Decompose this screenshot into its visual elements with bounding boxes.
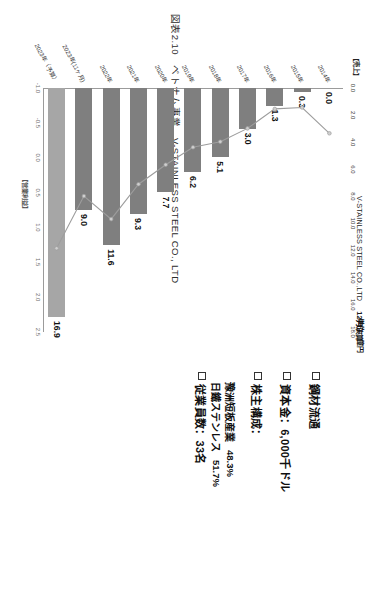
top-tick-label: 18.0: [350, 326, 356, 338]
checkbox-icon: [283, 372, 291, 380]
category-label: 2020年: [153, 63, 170, 84]
info-item-label: 鋼材流通: [307, 384, 323, 429]
info-item-label: 資本金：6,000千ドル: [278, 384, 294, 492]
shareholder-percent: 51.7%: [209, 460, 223, 487]
line-marker: [191, 146, 195, 150]
chart-plot-area: 0.00.31.33.05.16.27.79.311.69.016.9: [43, 88, 343, 332]
top-tick-label: 16.0: [350, 299, 356, 311]
chart-company-name: V-STAINLESS STEEL CO.,LTD: [355, 196, 364, 301]
top-tick-label: 12.0: [350, 245, 356, 257]
top-tick-label: 0.0: [350, 84, 356, 92]
line-marker: [300, 106, 304, 110]
category-label: 2014年: [316, 63, 333, 84]
shareholder-list: 豫洲短板産業48.3%日鐵ステンレス51.7%: [209, 382, 236, 604]
line-path: [57, 108, 330, 249]
top-tick-label: 6.0: [350, 165, 356, 173]
line-marker: [55, 247, 59, 251]
category-label: 2015年: [289, 63, 306, 84]
shareholder-name: 豫洲短板産業: [223, 382, 237, 442]
line-marker: [164, 163, 168, 167]
info-item-label: 株主構成：: [249, 384, 265, 441]
bottom-tick-label: -1.0: [35, 83, 41, 93]
category-label: 2023年(11ヶ月): [60, 43, 87, 84]
line-series: [43, 88, 343, 332]
top-tick-label: 8.0: [350, 192, 356, 200]
line-marker: [82, 194, 86, 198]
info-item-label: 従業員数：33名: [193, 384, 209, 465]
top-tick-label: 4.0: [350, 138, 356, 146]
shareholder-percent: 48.3%: [223, 450, 237, 477]
category-label: 2021年: [125, 63, 142, 84]
top-tick-label: 2.0: [350, 111, 356, 119]
category-label: 2017年: [234, 63, 251, 84]
category-axis-labels: 2014年2015年2016年2017年2018年2019年2020年2021年…: [43, 0, 343, 86]
bottom-tick-label: 2.5: [35, 328, 41, 336]
category-label: 2018年: [207, 63, 224, 84]
top-axis-ticks: 0.02.04.06.08.010.012.014.016.018.0: [344, 88, 356, 332]
shareholder-row: 日鐵ステンレス51.7%: [209, 382, 223, 604]
bottom-tick-label: 1.0: [35, 223, 41, 231]
info-item: 資本金：6,000千ドル: [278, 372, 294, 604]
top-tick-label: 14.0: [350, 272, 356, 284]
info-item: 従業員数：33名: [193, 372, 209, 604]
category-label: 2019年: [180, 63, 197, 84]
shareholder-name: 日鐵ステンレス: [209, 382, 223, 452]
company-info-list: 鋼材流通資本金：6,000千ドル株主構成：豫洲短板産業48.3%日鐵ステンレス5…: [180, 372, 323, 604]
checkbox-icon: [198, 372, 206, 380]
checkbox-icon: [254, 372, 262, 380]
shareholder-row: 豫洲短板産業48.3%: [223, 382, 237, 604]
info-item-heading: 従業員数：33名: [193, 372, 209, 604]
line-marker: [109, 217, 113, 221]
bottom-tick-label: 0.0: [35, 154, 41, 162]
top-axis-title: 【売上】: [352, 55, 361, 79]
bottom-tick-label: 2.0: [35, 293, 41, 301]
line-marker: [273, 107, 277, 111]
slide-page: 図表2.10 ベトナム事業 V-STAINLESS STEEL CO., LTD…: [0, 0, 383, 616]
chart-unit-label: 単位：億円: [356, 318, 366, 353]
checkbox-icon: [312, 372, 320, 380]
top-tick-label: 10.0: [350, 218, 356, 230]
category-label: 2022年: [98, 63, 115, 84]
line-marker: [328, 132, 332, 136]
bottom-tick-label: -0.5: [35, 118, 41, 128]
info-item: 株主構成：豫洲短板産業48.3%日鐵ステンレス51.7%: [209, 372, 265, 604]
info-item-heading: 株主構成：: [249, 372, 265, 604]
bottom-tick-label: 1.5: [35, 258, 41, 266]
line-marker: [219, 140, 223, 144]
line-marker: [246, 127, 250, 131]
category-label: 2023年（予算）: [32, 42, 60, 85]
bottom-tick-label: 0.5: [35, 188, 41, 196]
category-label: 2016年: [262, 63, 279, 84]
bottom-axis-ticks: -1.0-0.50.00.51.01.52.02.5: [29, 88, 41, 332]
slide-canvas: 図表2.10 ベトナム事業 V-STAINLESS STEEL CO., LTD…: [0, 0, 383, 616]
info-item: 鋼材流通: [307, 372, 323, 604]
line-marker: [137, 182, 141, 186]
info-item-heading: 資本金：6,000千ドル: [278, 372, 294, 604]
info-item-heading: 鋼材流通: [307, 372, 323, 604]
